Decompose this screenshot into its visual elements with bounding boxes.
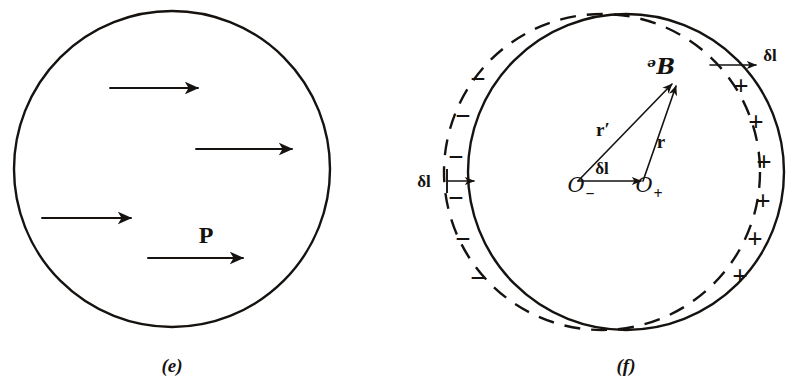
vector-r-label: r <box>657 131 666 152</box>
positive-surface-charge-group: + + + + + + <box>732 71 771 291</box>
origin-plus-subscript: + <box>653 185 662 202</box>
plus-sign: + <box>733 71 748 101</box>
minus-sign: − <box>448 142 463 172</box>
minus-sign: − <box>448 183 463 213</box>
minus-sign: − <box>455 224 470 254</box>
panel-e: P (e) <box>14 11 330 377</box>
field-point-label: ᵊB <box>647 53 675 79</box>
plus-sign: + <box>747 224 762 254</box>
delta-l-callout-left-label: δl <box>417 172 431 191</box>
plus-sign: + <box>755 186 770 216</box>
plus-sign: + <box>756 147 771 177</box>
minus-sign: − <box>470 64 485 94</box>
origin-plus: O + <box>635 173 662 202</box>
plus-sign: + <box>732 261 747 291</box>
delta-l-callout-top-right-label: δl <box>763 46 777 65</box>
delta-l-callout-top-right: δl <box>710 46 777 65</box>
delta-l-callout-left: δl <box>417 169 474 193</box>
figure-root: P (e) − − − − − − + + + + <box>0 0 797 385</box>
vector-triangle: r′ r δl <box>578 84 676 181</box>
physics-diagram-canvas: P (e) − − − − − − + + + + <box>0 0 797 385</box>
minus-sign: − <box>470 263 485 293</box>
panel-e-caption: (e) <box>161 355 182 377</box>
panel-f-caption: (f) <box>617 355 636 377</box>
origin-plus-symbol: O <box>635 173 652 197</box>
origin-minus-subscript: − <box>585 185 594 202</box>
panel-f: − − − − − − + + + + + + r′ <box>417 14 784 377</box>
origin-minus-symbol: O <box>567 173 584 197</box>
vector-delta-l-label: δl <box>595 159 609 178</box>
polarization-vector-label: P <box>199 222 214 248</box>
origin-minus: O − <box>567 173 594 202</box>
dielectric-sphere-outline <box>14 11 330 327</box>
minus-sign: − <box>455 101 470 131</box>
plus-sign: + <box>748 107 763 137</box>
vector-r-prime-label: r′ <box>596 119 610 140</box>
